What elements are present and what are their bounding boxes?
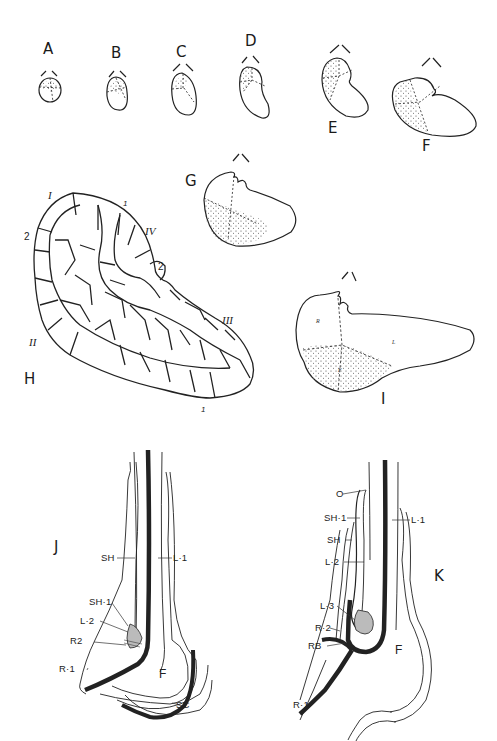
panel-label-b: B: [111, 46, 121, 61]
j-label-sc: SC: [176, 700, 190, 710]
k-label-rb: RB: [308, 641, 322, 651]
panel-j-drawing: [80, 450, 212, 718]
k-label-f: F: [395, 644, 403, 656]
panel-label-c: C: [176, 45, 186, 60]
panel-label-h: H: [24, 372, 35, 387]
j-label-sh: SH: [101, 553, 115, 563]
k-label-l3: L·3: [320, 601, 334, 611]
panel-label-d: D: [245, 34, 257, 49]
j-label-f: F: [159, 668, 167, 680]
panel-label-a: A: [43, 42, 53, 57]
h-label-num-2-right: 2: [158, 262, 164, 272]
panel-label-f: F: [422, 139, 431, 154]
panel-b-drawing: [107, 71, 127, 110]
h-label-num-1-bottom: 1: [201, 406, 205, 414]
figure-plate-drawings: [0, 0, 497, 741]
k-label-sh: SH: [327, 535, 341, 545]
k-label-r2: R·2: [315, 623, 331, 633]
k-label-o: O: [336, 489, 344, 499]
panel-f-drawing: [392, 58, 476, 136]
h-label-roman-i: I: [48, 190, 52, 201]
panel-label-j: J: [54, 540, 58, 555]
j-label-sh1: SH·1: [89, 597, 111, 607]
i-label-r: R: [316, 318, 320, 324]
h-label-roman-iv: IV: [145, 226, 155, 237]
h-label-num-2-left: 2: [24, 232, 30, 242]
k-label-r1: R·1: [293, 700, 309, 710]
j-label-r1: R·1: [59, 664, 75, 674]
panel-label-i: I: [381, 392, 385, 407]
panel-e-drawing: [322, 45, 368, 117]
k-label-l1: L·1: [411, 515, 425, 525]
panel-i-drawing: [296, 272, 474, 392]
panel-d-drawing: [240, 56, 270, 118]
h-label-num-1-top: 1: [123, 200, 127, 208]
j-label-l2: L·2: [80, 616, 94, 626]
panel-g-drawing: [204, 154, 296, 246]
i-label-l: L: [392, 339, 395, 345]
k-label-l2: L·2: [325, 557, 339, 567]
panel-label-k: K: [434, 569, 444, 584]
i-label-f: F: [338, 367, 342, 373]
panel-label-e: E: [328, 121, 337, 136]
j-label-r2: R2: [70, 636, 83, 646]
panel-label-g: G: [185, 174, 197, 189]
j-label-l1: L·1: [173, 553, 187, 563]
h-label-roman-iii: III: [222, 315, 233, 326]
panel-c-drawing: [172, 64, 197, 115]
h-label-roman-ii: II: [29, 337, 36, 348]
k-label-sh1: SH·1: [324, 513, 346, 523]
panel-a-drawing: [39, 71, 61, 102]
